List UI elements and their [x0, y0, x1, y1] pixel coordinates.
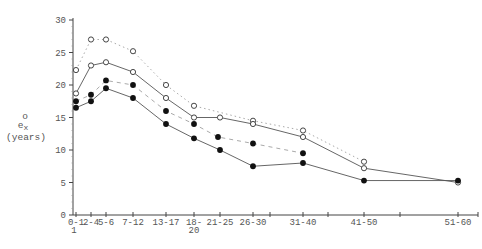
filled-circle-marker [250, 141, 256, 147]
open-circle-marker [103, 37, 108, 42]
y-tick-label: 10 [55, 146, 66, 156]
open-circle-marker [88, 37, 93, 42]
open-circle-marker [191, 103, 196, 108]
x-tick-label: 20 [189, 226, 200, 236]
x-tick-label: 5-6 [98, 218, 114, 228]
x-tick-label: 26-30 [239, 218, 266, 228]
open-circle-marker [361, 159, 366, 164]
y-tick-label: 20 [55, 81, 66, 91]
x-tick-label: 2-4 [83, 218, 99, 228]
axis-labels: o ex (years) [6, 111, 46, 143]
filled-circle-marker [130, 95, 136, 101]
series-line [76, 88, 458, 180]
open-circle-marker [217, 115, 222, 120]
filled-circle-marker [191, 121, 197, 127]
filled-circle-marker [73, 98, 79, 104]
filled-circle-marker [300, 160, 306, 166]
open-circle-marker [88, 63, 93, 68]
open-circle-marker [163, 95, 168, 100]
x-tick-label: 7-12 [122, 218, 144, 228]
filled-circle-marker [130, 82, 136, 88]
open-circle-marker [361, 166, 366, 171]
filled-circle-marker [455, 178, 461, 184]
open-circle-marker [103, 60, 108, 65]
y-tick-label: 0 [61, 211, 66, 221]
filled-circle-marker [88, 92, 94, 98]
filled-circle-marker [300, 150, 306, 156]
y-tick-label: 5 [61, 179, 66, 189]
series-0 [73, 37, 366, 164]
x-tick-label: 13-17 [152, 218, 179, 228]
x-tick-label: 41-50 [350, 218, 377, 228]
open-circle-marker [163, 82, 168, 87]
filled-circle-marker [103, 78, 109, 84]
open-circle-marker [250, 121, 255, 126]
series-1 [73, 60, 460, 185]
filled-circle-marker [73, 105, 79, 111]
y-tick-label: 15 [55, 114, 66, 124]
x-tick-label: 51-60 [444, 218, 471, 228]
filled-circle-marker [103, 85, 109, 91]
filled-circle-marker [361, 178, 367, 184]
x-tick-label: 1 [71, 226, 76, 236]
y-tick-label: 30 [55, 16, 66, 26]
series-line [76, 62, 458, 182]
data-series [73, 37, 461, 185]
series-line [76, 40, 364, 162]
life-expectancy-chart: 0510152025300-112-45-67-1213-1718-2021-2… [0, 0, 482, 249]
filled-circle-marker [215, 134, 221, 140]
open-circle-marker [300, 128, 305, 133]
x-tick-label: 31-40 [289, 218, 316, 228]
y-tick-label: 25 [55, 49, 66, 59]
series-3 [73, 85, 461, 183]
filled-circle-marker [163, 121, 169, 127]
filled-circle-marker [217, 147, 223, 153]
series-line [76, 80, 303, 153]
y-axis-label-unit: (years) [6, 132, 46, 143]
open-circle-marker [130, 49, 135, 54]
open-circle-marker [300, 134, 305, 139]
open-circle-marker [130, 69, 135, 74]
filled-circle-marker [191, 135, 197, 141]
open-circle-marker [191, 115, 196, 120]
filled-circle-marker [250, 163, 256, 169]
axes: 0510152025300-112-45-67-1213-1718-2021-2… [55, 16, 478, 236]
open-circle-marker [73, 91, 78, 96]
filled-circle-marker [88, 98, 94, 104]
x-tick-label: 21-25 [206, 218, 233, 228]
filled-circle-marker [163, 108, 169, 114]
open-circle-marker [73, 67, 78, 72]
